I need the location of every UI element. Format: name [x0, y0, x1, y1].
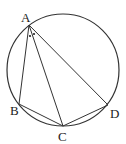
segment-cd [63, 105, 108, 126]
label-c: C [58, 129, 67, 144]
label-d: D [110, 106, 119, 121]
angle-mark-bac [29, 35, 31, 37]
label-a: A [21, 10, 31, 25]
segment-ac [29, 25, 63, 126]
segment-ab [19, 25, 29, 104]
label-b: B [10, 103, 19, 118]
angle-mark-cad [33, 33, 35, 35]
circle-diagram: A B C D [0, 0, 126, 144]
segment-ad [29, 25, 108, 105]
